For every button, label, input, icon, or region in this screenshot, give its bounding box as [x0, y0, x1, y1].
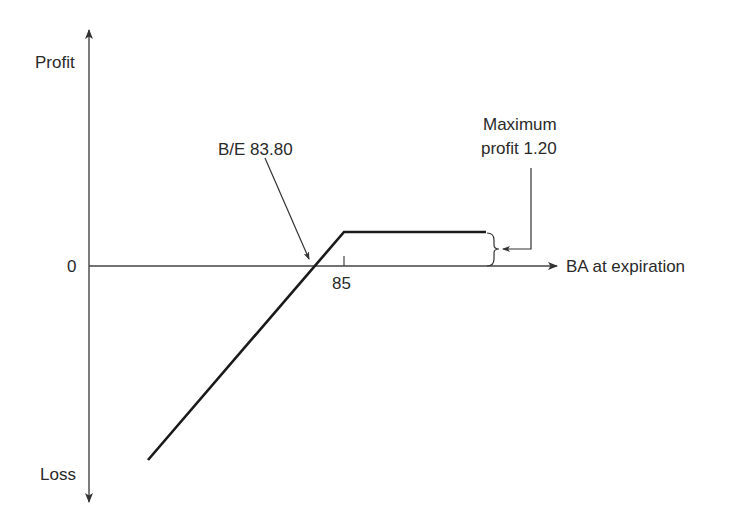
- max-profit-label-line1: Maximum: [483, 116, 557, 133]
- breakeven-arrow: [265, 158, 309, 259]
- x-tick-label: 85: [332, 275, 351, 292]
- x-axis-label: BA at expiration: [566, 258, 685, 275]
- y-axis-bottom-label: Loss: [40, 466, 76, 483]
- y-axis-top-label: Profit: [35, 54, 75, 71]
- breakeven-label: B/E 83.80: [218, 141, 293, 158]
- max-profit-brace: [487, 233, 499, 266]
- zero-label: 0: [67, 258, 76, 275]
- max-profit-label-line2: profit 1.20: [481, 140, 557, 157]
- max-profit-pointer: [503, 168, 531, 249]
